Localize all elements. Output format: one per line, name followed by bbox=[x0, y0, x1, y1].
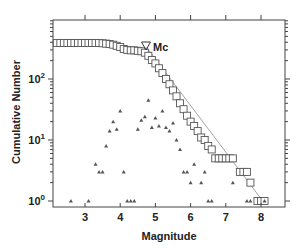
cumulative-point bbox=[173, 93, 180, 100]
noncumulative-point bbox=[248, 199, 252, 203]
noncumulative-point bbox=[182, 170, 186, 174]
noncumulative-point bbox=[231, 181, 235, 185]
noncumulative-point bbox=[245, 199, 249, 203]
noncumulative-point bbox=[175, 138, 179, 142]
noncumulative-point bbox=[129, 199, 133, 203]
noncumulative-point bbox=[153, 116, 157, 120]
noncumulative-point bbox=[122, 170, 126, 174]
noncumulative-point bbox=[178, 147, 182, 151]
cumulative-point bbox=[180, 106, 187, 113]
noncumulative-point bbox=[118, 109, 122, 113]
noncumulative-point bbox=[150, 126, 154, 129]
noncumulative-point bbox=[203, 170, 207, 174]
noncumulative-point bbox=[185, 170, 189, 174]
noncumulative-point bbox=[189, 181, 193, 185]
y-tick-label: 100 bbox=[28, 193, 45, 207]
y-axis-title: Cumulative Number bbox=[10, 59, 22, 164]
noncumulative-point bbox=[206, 199, 210, 203]
noncumulative-point bbox=[115, 127, 119, 131]
x-tick-label: 3 bbox=[82, 211, 88, 223]
x-tick-label: 7 bbox=[223, 211, 229, 223]
noncumulative-point bbox=[143, 115, 147, 119]
cumulative-point bbox=[208, 146, 215, 153]
noncumulative-point bbox=[146, 98, 150, 102]
x-tick-label: 8 bbox=[258, 211, 264, 223]
noncumulative-point bbox=[125, 199, 129, 203]
noncumulative-point bbox=[104, 144, 108, 148]
noncumulative-point bbox=[94, 162, 98, 166]
noncumulative-point bbox=[164, 126, 168, 129]
x-tick-label: 6 bbox=[188, 211, 194, 223]
x-tick-label: 5 bbox=[152, 211, 158, 223]
noncumulative-point bbox=[210, 199, 214, 203]
noncumulative-point bbox=[139, 118, 143, 122]
y-tick-label: 101 bbox=[28, 132, 45, 146]
noncumulative-point bbox=[167, 129, 171, 133]
noncumulative-point bbox=[171, 121, 175, 125]
cumulative-point bbox=[243, 168, 250, 175]
noncumulative-series bbox=[69, 98, 267, 202]
noncumulative-point bbox=[87, 199, 91, 203]
noncumulative-point bbox=[69, 199, 73, 203]
x-tick-label: 4 bbox=[117, 211, 124, 223]
noncumulative-point bbox=[157, 124, 161, 128]
noncumulative-point bbox=[199, 181, 203, 185]
noncumulative-point bbox=[111, 120, 115, 124]
y-tick-label: 102 bbox=[28, 71, 45, 85]
cumulative-series bbox=[53, 39, 268, 204]
cumulative-point bbox=[229, 155, 236, 162]
noncumulative-point bbox=[101, 170, 105, 174]
noncumulative-point bbox=[160, 109, 164, 113]
noncumulative-point bbox=[136, 127, 140, 131]
cumulative-point bbox=[247, 179, 254, 186]
magnitude-frequency-chart: 345678 100101102 Mc Magnitude Cumulative… bbox=[0, 0, 298, 248]
noncumulative-point bbox=[192, 162, 196, 166]
noncumulative-point bbox=[108, 129, 112, 133]
noncumulative-point bbox=[132, 199, 136, 203]
x-axis-title: Magnitude bbox=[142, 230, 197, 242]
legend-label-mc: Mc bbox=[153, 41, 168, 53]
noncumulative-point bbox=[97, 170, 101, 174]
